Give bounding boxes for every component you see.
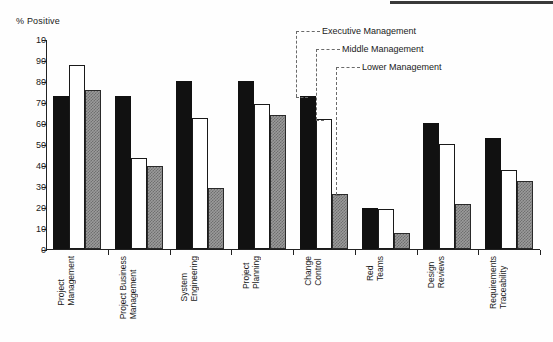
bar-group <box>362 208 410 249</box>
bar-exec <box>238 81 254 249</box>
legend-leader-horizontal <box>316 49 340 50</box>
bar-lower <box>270 115 286 249</box>
x-tick-mark <box>417 250 418 255</box>
x-tick-mark <box>293 250 294 255</box>
bar-exec <box>300 96 316 249</box>
y-tick-mark <box>42 208 47 209</box>
bar-middle <box>254 104 270 249</box>
bar-group <box>53 65 101 249</box>
x-axis-label: Red Teams <box>366 256 385 281</box>
bar-lower <box>85 90 101 249</box>
bar-exec <box>115 96 131 249</box>
legend-leader-jog <box>296 97 308 98</box>
bar-middle <box>131 158 147 249</box>
bar-lower <box>517 181 533 249</box>
bar-group <box>115 96 163 249</box>
bar-group <box>423 123 471 249</box>
legend-leader-vertical <box>336 67 337 195</box>
y-tick-mark <box>42 145 47 146</box>
x-tick-mark <box>540 250 541 255</box>
bar-group <box>485 138 533 249</box>
x-axis-label: Project Planning <box>242 256 261 289</box>
legend-label-lower: Lower Management <box>362 63 442 72</box>
legend-label-executive: Executive Management <box>322 27 416 36</box>
page-rule-artifact <box>390 1 553 4</box>
y-tick-mark <box>42 250 47 251</box>
legend-leader-jog <box>316 120 324 121</box>
x-axis-label: Design Reviews <box>427 256 446 288</box>
legend-leader-jog <box>336 195 340 196</box>
chart-page: % Positive 010203040506070809010 Project… <box>0 0 553 342</box>
legend-leader-horizontal <box>296 31 320 32</box>
y-tick-mark <box>42 124 47 125</box>
y-tick-mark <box>42 229 47 230</box>
bar-middle <box>316 119 332 249</box>
y-axis-title: % Positive <box>16 16 60 26</box>
x-axis-label: Change Control <box>304 256 323 286</box>
bar-lower <box>147 166 163 249</box>
bar-exec <box>176 81 192 249</box>
bar-lower <box>208 188 224 249</box>
bar-middle <box>192 118 208 249</box>
plot-area: 010203040506070809010 Project Management… <box>46 40 540 250</box>
bar-exec <box>362 208 378 249</box>
bar-lower <box>455 204 471 249</box>
bar-group <box>300 96 348 249</box>
x-tick-mark <box>478 250 479 255</box>
bar-group <box>176 81 224 249</box>
legend-leader-horizontal <box>336 67 360 68</box>
y-tick-mark <box>42 61 47 62</box>
y-tick-mark <box>42 82 47 83</box>
x-tick-mark <box>355 250 356 255</box>
bar-exec <box>485 138 501 249</box>
legend-label-middle: Middle Management <box>342 45 424 54</box>
bar-exec <box>423 123 439 249</box>
x-axis-label: Project Business Management <box>119 256 138 319</box>
bar-middle <box>439 144 455 249</box>
x-tick-mark <box>231 250 232 255</box>
bar-lower <box>332 194 348 249</box>
bar-middle <box>69 65 85 249</box>
x-axis-label: Requirements Traceability <box>489 256 508 309</box>
bar-lower <box>394 233 410 249</box>
x-tick-mark <box>170 250 171 255</box>
y-tick-mark <box>42 103 47 104</box>
bar-middle <box>378 209 394 249</box>
y-tick-mark <box>42 40 47 41</box>
x-tick-mark <box>108 250 109 255</box>
y-tick-mark <box>42 166 47 167</box>
legend-leader-vertical <box>296 31 297 97</box>
x-axis-label: System Engineering <box>180 256 199 301</box>
bar-middle <box>501 170 517 249</box>
x-axis-label: Project Management <box>57 256 76 306</box>
bar-exec <box>53 96 69 249</box>
y-tick-mark <box>42 187 47 188</box>
bar-group <box>238 81 286 249</box>
legend-leader-vertical <box>316 49 317 120</box>
